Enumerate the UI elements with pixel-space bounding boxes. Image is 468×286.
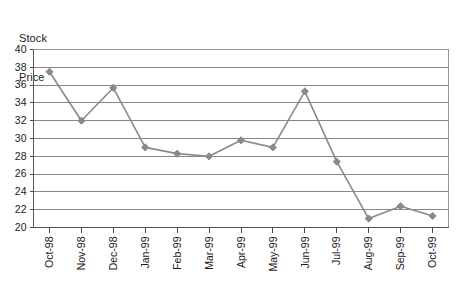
x-axis-label-Nov-98: Nov-98 [75,236,87,270]
data-point-May-99 [269,144,276,151]
y-axis-label-32: 32 [15,114,27,126]
x-axis-label-Apr-99: Apr-99 [235,236,247,268]
data-point-Jul-99 [333,158,340,165]
y-axis-label-40: 40 [15,43,27,55]
series-line-stock-price [49,72,432,219]
y-axis-label-36: 36 [15,78,27,90]
y-axis-label-22: 22 [15,203,27,215]
stock-price-chart: Stock Price 4038363432302826242220Oct-98… [0,0,468,286]
y-axis-label-30: 30 [15,132,27,144]
x-axis-label-Jun-99: Jun-99 [299,236,311,268]
data-point-Jan-99 [142,144,149,151]
x-axis-label-Mar-99: Mar-99 [203,236,215,269]
x-axis-label-Sep-99: Sep-99 [394,236,406,270]
x-axis-label-Feb-99: Feb-99 [171,236,183,269]
y-axis-label-28: 28 [15,150,27,162]
data-point-Apr-99 [237,137,244,144]
data-point-Aug-99 [365,215,372,222]
x-axis-label-Oct-99: Oct-99 [426,236,438,268]
y-axis-label-34: 34 [15,96,27,108]
y-axis-label-24: 24 [15,185,27,197]
y-axis-label-38: 38 [15,61,27,73]
plot-area: 4038363432302826242220Oct-98Nov-98Dec-98… [0,0,468,286]
x-axis-label-Aug-99: Aug-99 [362,236,374,270]
data-point-Sep-99 [397,203,404,210]
x-axis-label-Dec-98: Dec-98 [107,236,119,270]
y-axis-label-20: 20 [15,221,27,233]
data-point-Oct-99 [429,212,436,219]
y-axis-label-26: 26 [15,167,27,179]
x-axis-label-Jan-99: Jan-99 [139,236,151,268]
x-axis-label-May-99: May-99 [267,236,279,271]
x-axis-label-Oct-98: Oct-98 [43,236,55,268]
data-point-Mar-99 [205,153,212,160]
x-axis-label-Jul-99: Jul-99 [330,236,342,265]
data-point-Jun-99 [301,88,308,95]
